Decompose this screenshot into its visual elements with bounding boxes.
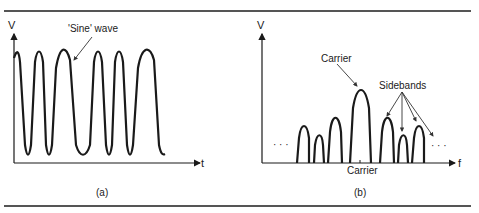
carrier-annotation: Carrier [321,54,352,64]
ellipsis-left: · · · [273,140,289,150]
panel-a [14,34,200,163]
lobe-lower-1 [328,118,342,163]
v-axis-label-a: V [8,20,15,31]
carrier-tick-label: Carrier [347,166,378,176]
sine-annotation-arrow [74,37,92,60]
sine-wave-curve [14,50,165,155]
sine-wave-annotation: 'Sine' wave [68,24,118,34]
v-axis-label-b: V [257,20,264,31]
lobe-lower-3 [297,126,309,163]
lobe-lower-2 [314,135,324,163]
lobe-upper-1 [380,118,394,163]
f-axis-label: f [458,158,461,169]
t-axis-label: t [201,158,204,169]
lobe-upper-3 [412,126,424,163]
caption-b: (b) [354,188,366,198]
panel-b [262,34,455,163]
sidebands-annotation: Sidebands [379,81,426,91]
caption-a: (a) [96,188,108,198]
lobe-upper-2 [398,135,408,163]
ellipsis-right: · · · [431,141,447,151]
carrier-annotation-arrow [337,64,357,86]
lobe-carrier [350,90,371,163]
sidebands-arrows [387,92,433,136]
spectrum-lobes [297,90,424,163]
